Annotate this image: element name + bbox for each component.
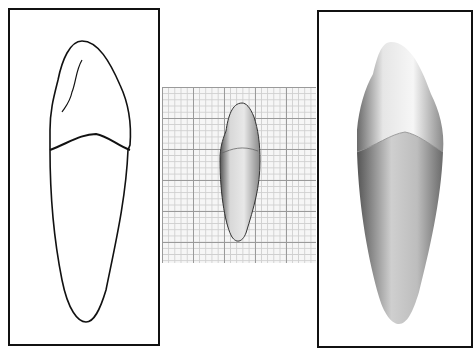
tooth-shaded-render: [319, 12, 475, 350]
tooth-photo: [162, 87, 316, 263]
line-drawing-panel: [8, 8, 160, 346]
graph-paper-photo-panel: [162, 87, 316, 263]
tooth-outline-drawing: [10, 10, 162, 348]
shaded-render-panel: [317, 10, 473, 348]
